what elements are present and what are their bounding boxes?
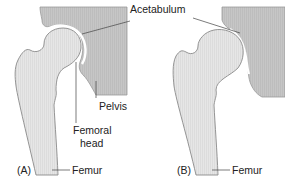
panel-label-b: (B)	[177, 164, 191, 176]
label-femur-b: Femur	[232, 164, 263, 176]
label-femur-a: Femur	[72, 164, 103, 176]
label-pelvis: Pelvis	[99, 100, 127, 112]
panel-label-a: (A)	[17, 164, 31, 176]
hip-joint-diagram: Pelvis Femoral head Femur (A) Acetabulum…	[0, 0, 285, 184]
panel-b: Femur (B)	[173, 7, 285, 176]
label-femoral-head-2: head	[80, 137, 104, 149]
label-acetabulum: Acetabulum	[130, 3, 186, 15]
panel-a: Pelvis Femoral head Femur (A)	[15, 7, 130, 176]
label-femoral-head-1: Femoral	[73, 124, 112, 136]
femur-shape-b	[173, 29, 243, 175]
femur-shape-a	[15, 28, 81, 175]
